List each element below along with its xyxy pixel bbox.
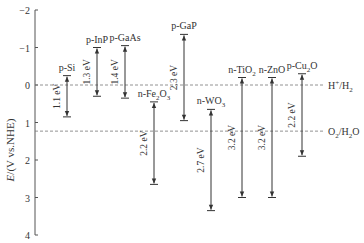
material-label: n-TiO2 [228, 64, 256, 78]
material-label: n-Fe2O3 [138, 88, 171, 102]
band-arrow-n-zno: n-ZnO3.2 eV [257, 64, 285, 198]
y-tick-label: 3 [25, 193, 30, 204]
band-gap-label: 1.1 eV [52, 83, 62, 108]
band-edge-chart: −2−101234 H+/H2O2/H2O p-Si1.1 eVp-InP1.3… [0, 0, 364, 243]
y-tick-label: −2 [19, 5, 30, 16]
band-gap-label: 2.2 eV [139, 130, 149, 155]
band-gap-label: 2.3 eV [169, 65, 179, 90]
band-gap-label: 1.3 eV [82, 59, 92, 84]
band-gap-label: 3.2 eV [227, 125, 237, 150]
band-arrow-n-fe: n-Fe2O32.2 eV [138, 88, 171, 185]
material-label: n-WO3 [197, 95, 226, 109]
chart-svg: −2−101234 H+/H2O2/H2O p-Si1.1 eVp-InP1.3… [0, 0, 364, 243]
y-tick-label: 2 [25, 155, 30, 166]
material-label: p-GaAs [109, 32, 140, 43]
reference-label: O2/H2O [328, 126, 359, 140]
band-gap-label: 2.2 eV [287, 102, 297, 127]
material-label: n-ZnO [259, 64, 286, 75]
band-arrow-n-wo: n-WO32.7 eV [196, 95, 226, 210]
y-tick-label: 0 [25, 80, 30, 91]
y-axis-label: E/(V vs.NHE) [4, 118, 17, 182]
y-tick-label: 1 [25, 118, 30, 129]
y-tick-label: 4 [25, 230, 30, 241]
y-axis: −2−101234 [19, 5, 38, 241]
band-arrow-p-gap: p-GaP2.3 eV [169, 20, 197, 120]
band-gap-label: 2.7 eV [196, 147, 206, 172]
band-arrow-p-gaas: p-GaAs1.4 eV [109, 32, 140, 99]
material-label: p-Si [59, 62, 76, 73]
reference-lines: H+/H2O2/H2O [35, 79, 359, 140]
band-arrow-p-si: p-Si1.1 eV [52, 62, 76, 117]
material-label: p-GaP [171, 20, 197, 31]
band-arrow-p-cu: p-Cu2O2.2 eV [287, 60, 318, 157]
band-gap-arrows: p-Si1.1 eVp-InP1.3 eVp-GaAs1.4 eVn-Fe2O3… [52, 20, 317, 210]
reference-label: H+/H2 [328, 79, 353, 94]
y-tick-label: −1 [19, 43, 30, 54]
material-label: p-Cu2O [287, 60, 318, 74]
material-label: p-InP [86, 34, 109, 45]
band-arrow-p-inp: p-InP1.3 eV [82, 34, 109, 97]
band-gap-label: 3.2 eV [257, 125, 267, 150]
band-gap-label: 1.4 eV [110, 59, 120, 84]
band-arrow-n-tio: n-TiO23.2 eV [227, 64, 256, 198]
